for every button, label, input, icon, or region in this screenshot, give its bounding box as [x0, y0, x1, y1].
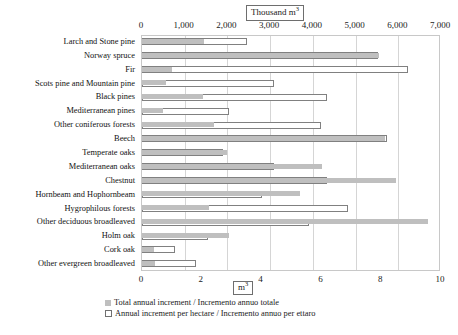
bar-row — [142, 258, 439, 272]
bar-row — [142, 175, 439, 189]
bar-row — [142, 133, 439, 147]
bar-row — [142, 244, 439, 258]
category-label: Mediterranean oaks — [69, 162, 135, 171]
bottom-axis-tick-label: 10 — [436, 273, 445, 285]
bar-total-annual-increment — [142, 122, 214, 127]
category-label: Mediterranean pines — [66, 106, 135, 115]
bar-row — [142, 203, 439, 217]
legend-label: Annual increment per hectare / Increment… — [115, 308, 315, 319]
plot-area — [141, 35, 440, 271]
legend-open-square-icon — [105, 310, 112, 317]
bottom-axis-tick-label: 8 — [378, 273, 383, 285]
bar-row — [142, 189, 439, 203]
legend-item[interactable]: Total annual increment / Incremento annu… — [105, 297, 315, 308]
bar-row — [142, 105, 439, 119]
bar-total-annual-increment — [142, 219, 428, 224]
legend-item[interactable]: Annual increment per hectare / Increment… — [105, 308, 315, 319]
bar-row — [142, 50, 439, 64]
category-label: Hygrophilous forests — [65, 204, 135, 213]
bar-total-annual-increment — [142, 261, 155, 266]
bar-total-annual-increment — [142, 150, 227, 155]
bar-row — [142, 64, 439, 78]
bar-total-annual-increment — [142, 39, 204, 44]
category-label: Beech — [114, 134, 135, 143]
category-label: Other deciduous broadleaved — [37, 217, 135, 226]
top-axis-tick-label: 6,000 — [387, 19, 407, 31]
forest-increment-chart: Thousand m3 01,0002,0003,0004,0005,0006,… — [0, 0, 458, 335]
top-axis-tick-label: 4,000 — [302, 19, 322, 31]
bar-row — [142, 92, 439, 106]
bar-total-annual-increment — [142, 67, 172, 72]
legend-label: Total annual increment / Incremento annu… — [114, 297, 279, 308]
bar-total-annual-increment — [142, 233, 229, 238]
category-label: Fir — [125, 65, 135, 74]
top-axis-ticks: 01,0002,0003,0004,0005,0006,0007,000 — [0, 19, 458, 31]
category-label: Black pines — [96, 92, 135, 101]
category-label: Other evergreen broadleaved — [38, 259, 135, 268]
category-label: Cork oak — [104, 245, 135, 254]
bar-row — [142, 78, 439, 92]
bottom-axis-ticks: 0246810 — [0, 273, 458, 285]
top-axis-tick-label: 1,000 — [174, 19, 194, 31]
bar-row — [142, 119, 439, 133]
category-label: Chestnut — [105, 176, 135, 185]
bar-row — [142, 36, 439, 50]
bar-total-annual-increment — [142, 164, 322, 169]
category-label: Norway spruce — [84, 51, 135, 60]
bar-total-annual-increment — [142, 178, 396, 183]
bar-total-annual-increment — [142, 108, 163, 113]
category-axis-labels: Larch and Stone pineNorway spruceFirScot… — [0, 35, 138, 271]
category-label: Other coniferous forests — [54, 120, 135, 129]
top-axis-tick-label: 3,000 — [259, 19, 279, 31]
legend: Total annual increment / Incremento annu… — [105, 297, 315, 319]
top-axis-tick-label: 2,000 — [216, 19, 236, 31]
category-label: Larch and Stone pine — [64, 37, 135, 46]
bottom-axis-tick-label: 2 — [199, 273, 204, 285]
bar-total-annual-increment — [142, 191, 300, 196]
bar-total-annual-increment — [142, 53, 379, 58]
top-axis-tick-label: 5,000 — [344, 19, 364, 31]
bar-total-annual-increment — [142, 247, 154, 252]
bottom-axis-tick-label: 6 — [318, 273, 323, 285]
bar-row — [142, 230, 439, 244]
legend-filled-square-icon — [105, 300, 111, 306]
bar-total-annual-increment — [142, 94, 203, 99]
bottom-axis-tick-label: 4 — [258, 273, 263, 285]
top-axis-tick-label: 0 — [139, 19, 144, 31]
bottom-axis-tick-label: 0 — [139, 273, 144, 285]
bar-row — [142, 216, 439, 230]
bar-row — [142, 161, 439, 175]
bar-total-annual-increment — [142, 205, 209, 210]
bar-total-annual-increment — [142, 80, 166, 85]
category-label: Hornbeam and Hophornbeam — [35, 190, 135, 199]
bar-row — [142, 147, 439, 161]
bar-annual-increment-per-hectare — [142, 66, 408, 73]
bar-total-annual-increment — [142, 136, 385, 141]
top-axis-tick-label: 7,000 — [430, 19, 450, 31]
category-label: Scots pine and Mountain pine — [35, 79, 135, 88]
category-label: Holm oak — [102, 231, 135, 240]
category-label: Temperate oaks — [82, 148, 135, 157]
